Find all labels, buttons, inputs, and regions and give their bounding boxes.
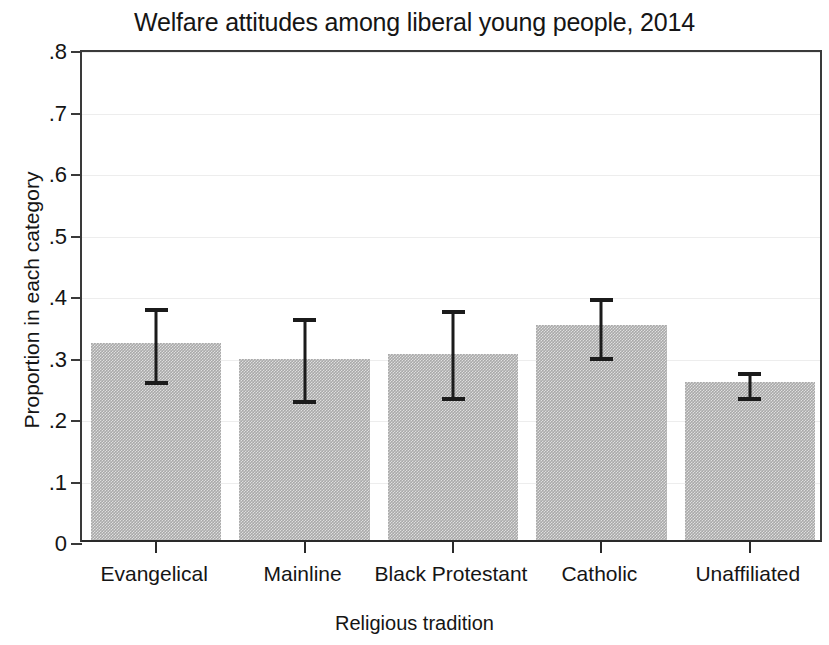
y-tick-mark	[71, 482, 82, 484]
error-bar	[748, 372, 751, 402]
gridline	[82, 114, 820, 115]
x-axis-label: Religious tradition	[0, 612, 829, 635]
y-tick-label: .3	[49, 347, 67, 373]
y-tick-label: .7	[49, 101, 67, 127]
x-tick-label: Unaffiliated	[695, 562, 800, 586]
y-tick-label: .6	[49, 162, 67, 188]
y-tick-mark	[71, 113, 82, 115]
x-tick-mark	[452, 540, 454, 553]
chart-title: Welfare attitudes among liberal young pe…	[0, 8, 829, 37]
plot-area: 0.1.2.3.4.5.6.7.8	[80, 50, 822, 542]
y-tick-label: 0	[55, 531, 67, 557]
y-tick-mark	[71, 51, 82, 53]
error-bar-cap-top	[590, 298, 613, 302]
error-bar-cap-bottom	[293, 400, 316, 404]
y-tick-label: .5	[49, 224, 67, 250]
error-bar-cap-bottom	[145, 381, 168, 385]
chart-figure: Welfare attitudes among liberal young pe…	[0, 0, 829, 645]
error-bar-cap-bottom	[442, 397, 465, 401]
gridline	[82, 175, 820, 176]
error-bar-cap-top	[442, 310, 465, 314]
error-bar	[155, 308, 158, 385]
error-bar-cap-top	[145, 308, 168, 312]
error-bar-cap-bottom	[590, 357, 613, 361]
y-tick-mark	[71, 297, 82, 299]
gridline	[82, 237, 820, 238]
error-bar-cap-top	[293, 318, 316, 322]
x-tick-mark	[600, 540, 602, 553]
y-tick-mark	[71, 420, 82, 422]
x-tick-label: Black Protestant	[375, 562, 528, 586]
x-tick-label: Mainline	[263, 562, 341, 586]
x-tick-mark	[749, 540, 751, 553]
error-bar	[303, 318, 306, 404]
y-axis-label: Proportion in each category	[20, 90, 44, 510]
y-tick-label: .2	[49, 408, 67, 434]
gridline	[82, 298, 820, 299]
bar	[685, 382, 816, 540]
y-tick-label: .4	[49, 285, 67, 311]
x-tick-label: Evangelical	[100, 562, 207, 586]
error-bar	[600, 298, 603, 361]
y-tick-label: .1	[49, 470, 67, 496]
y-tick-mark	[71, 174, 82, 176]
x-tick-mark	[155, 540, 157, 553]
x-tick-mark	[304, 540, 306, 553]
y-tick-mark	[71, 359, 82, 361]
y-tick-label: .8	[49, 39, 67, 65]
error-bar	[452, 310, 455, 401]
error-bar-cap-top	[738, 372, 761, 376]
y-tick-mark	[71, 236, 82, 238]
gridline	[82, 52, 820, 53]
x-tick-label: Catholic	[561, 562, 637, 586]
error-bar-cap-bottom	[738, 397, 761, 401]
y-tick-mark	[71, 543, 82, 545]
